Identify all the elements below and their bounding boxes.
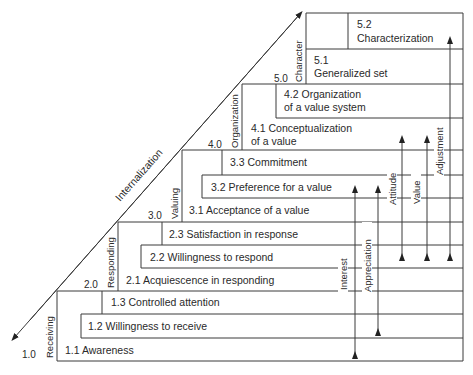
item-1-1: 1.1 Awareness xyxy=(65,344,134,356)
item-4-1-line1: 4.1 Conceptualization xyxy=(251,122,352,134)
range-label-appreciation: Appreciation xyxy=(362,239,373,292)
affective-domain-diagram: Internalization xyxy=(0,0,473,375)
item-5-2-line1: 5.2 xyxy=(357,18,372,30)
range-label-value: Value xyxy=(411,180,422,204)
item-5-1-line1: 5.1 xyxy=(314,54,329,66)
range-label-interest: Interest xyxy=(338,258,349,290)
level-number-5: 5.0 xyxy=(274,73,288,84)
item-2-1: 2.1 Acquiescence in responding xyxy=(126,274,274,286)
level-names: Receiving Responding Valuing Organizatio… xyxy=(44,40,304,358)
internalization-axis: Internalization xyxy=(14,14,300,338)
item-1-3: 1.3 Controlled attention xyxy=(111,296,220,308)
level-name-organization: Organization xyxy=(229,94,240,148)
level-name-character: Character xyxy=(293,40,304,82)
item-1-2: 1.2 Willingness to receive xyxy=(88,320,207,332)
item-3-1: 3.1 Acceptance of a value xyxy=(189,204,309,216)
internalization-label: Internalization xyxy=(112,146,164,203)
range-label-adjustment: Adjustment xyxy=(434,127,445,175)
level-number-2: 2.0 xyxy=(84,279,98,290)
item-5-2-line2: Characterization xyxy=(357,32,434,44)
level-name-responding: Responding xyxy=(105,237,116,288)
level-numbers: 1.0 2.0 3.0 4.0 5.0 xyxy=(22,73,288,360)
item-2-2: 2.2 Willingness to respond xyxy=(150,251,273,263)
item-4-2-line1: 4.2 Organization xyxy=(284,88,361,100)
level-name-receiving: Receiving xyxy=(44,316,55,358)
range-label-attitude: Attitude xyxy=(387,173,398,205)
item-5-1-line2: Generalized set xyxy=(314,67,388,79)
level-number-1: 1.0 xyxy=(22,349,36,360)
level-number-4: 4.0 xyxy=(208,139,222,150)
item-3-3: 3.3 Commitment xyxy=(230,156,307,168)
item-3-2: 3.2 Preference for a value xyxy=(211,181,332,193)
item-4-2-line2: of a value system xyxy=(284,101,366,113)
item-2-3: 2.3 Satisfaction in response xyxy=(169,228,298,240)
item-4-1-line2: of a value xyxy=(251,135,297,147)
level-number-3: 3.0 xyxy=(148,210,162,221)
level-name-valuing: Valuing xyxy=(169,188,180,219)
